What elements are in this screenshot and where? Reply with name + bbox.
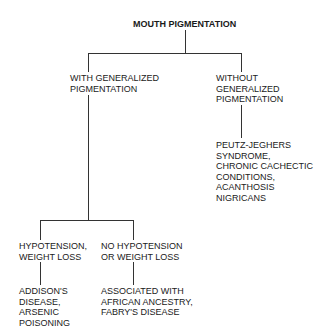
connector-to-no-hypotension xyxy=(133,220,134,240)
node-line: WITHOUT xyxy=(216,73,283,84)
connector-to-hypotension xyxy=(40,220,41,240)
result-hypotension: ADDISON'S DISEASE, ARSENIC POISONING xyxy=(19,286,70,327)
node-line: PIGMENTATION xyxy=(70,84,159,95)
connector-root-down xyxy=(185,30,186,53)
node-line: WITH GENERALIZED xyxy=(70,73,159,84)
result-line: ADDISON'S xyxy=(19,286,70,297)
result-line: DISEASE, xyxy=(19,297,70,308)
result-no-hypotension: ASSOCIATED WITH AFRICAN ANCESTRY, FABRY'… xyxy=(101,286,193,318)
result-line: ACANTHOSIS xyxy=(216,182,313,193)
node-line: HYPOTENSION, xyxy=(19,241,87,252)
root-node: MOUTH PIGMENTATION xyxy=(133,19,236,30)
node-line: PIGMENTATION xyxy=(216,94,283,105)
node-no-hypotension: NO HYPOTENSION OR WEIGHT LOSS xyxy=(101,241,183,262)
node-hypotension: HYPOTENSION, WEIGHT LOSS xyxy=(19,241,87,262)
node-line: NO HYPOTENSION xyxy=(101,241,183,252)
result-line: NIGRICANS xyxy=(216,193,313,204)
result-line: AFRICAN ANCESTRY, xyxy=(101,297,193,308)
connector-no-hypotension-to-result xyxy=(133,262,134,285)
connector-to-without xyxy=(241,53,242,72)
result-line: ARSENIC xyxy=(19,307,70,318)
node-with-generalized: WITH GENERALIZED PIGMENTATION xyxy=(70,73,159,94)
result-line: FABRY'S DISEASE xyxy=(101,307,193,318)
result-line: CHRONIC CACHECTIC xyxy=(216,161,313,172)
result-line: SYNDROME, xyxy=(216,151,313,162)
result-without-generalized: PEUTZ-JEGHERS SYNDROME, CHRONIC CACHECTI… xyxy=(216,140,313,204)
root-label: MOUTH PIGMENTATION xyxy=(133,19,236,30)
result-line: PEUTZ-JEGHERS xyxy=(216,140,313,151)
result-line: CONDITIONS, xyxy=(216,172,313,183)
node-line: GENERALIZED xyxy=(216,84,283,95)
connector-hypotension-to-result xyxy=(40,262,41,285)
connector-to-with xyxy=(88,53,89,72)
result-line: POISONING xyxy=(19,318,70,327)
node-line: WEIGHT LOSS xyxy=(19,252,87,263)
node-without-generalized: WITHOUT GENERALIZED PIGMENTATION xyxy=(216,73,283,105)
connector-without-to-result xyxy=(241,105,242,138)
result-line: ASSOCIATED WITH xyxy=(101,286,193,297)
connector-with-down xyxy=(88,95,89,220)
connector-root-horizontal xyxy=(88,53,242,54)
connector-with-horizontal xyxy=(40,220,134,221)
node-line: OR WEIGHT LOSS xyxy=(101,252,183,263)
